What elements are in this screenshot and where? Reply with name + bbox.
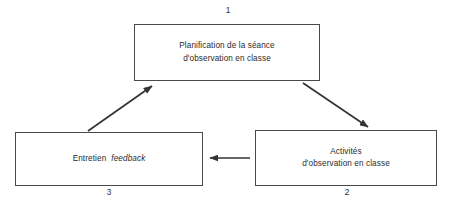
node-3-box[interactable]: Entretien feedback [15,132,203,186]
arrow-node3-to-node1 [88,86,152,131]
node-1-line-2: d'observation en classe [183,53,271,66]
node-3-line-2: feedback [111,153,145,166]
node-1-box[interactable]: Planification de la séance d'observation… [134,24,320,81]
node-2-line-1: Activités [330,146,361,159]
node-1-line-1: Planification de la séance [179,40,274,53]
node-3-number: 3 [97,188,121,197]
node-2-line-2: d'observation en classe [302,158,390,171]
diagram-canvas: 1 Planification de la séance d'observati… [0,0,456,211]
arrow-node1-to-node2 [303,83,368,127]
node-3-text-row: Entretien feedback [73,153,146,166]
node-1-number: 1 [216,6,240,15]
node-3-line-1: Entretien [73,153,107,166]
node-2-number: 2 [335,188,359,197]
node-2-box[interactable]: Activités d'observation en classe [255,130,437,186]
